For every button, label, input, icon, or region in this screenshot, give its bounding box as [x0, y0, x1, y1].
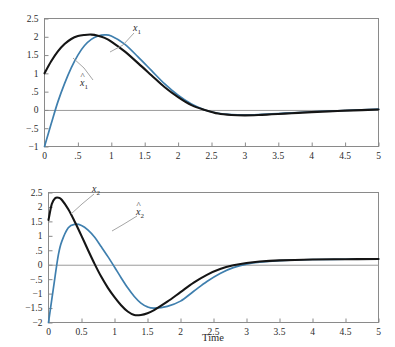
y-tick-label: 0: [38, 260, 43, 270]
x-tick-label: 3: [243, 151, 248, 161]
x-tick-label: 1: [112, 327, 117, 337]
y-tick-label: −2: [32, 318, 42, 328]
x-tick-label: 2: [178, 327, 183, 337]
x-tick-label: 2: [176, 151, 181, 161]
y-tick-label: −1: [32, 289, 42, 299]
y-tick-label: .5: [35, 246, 42, 256]
y-tick-label: −.5: [30, 275, 43, 285]
x-tick-label: 4: [309, 151, 314, 161]
x-tick-label: 3: [244, 327, 249, 337]
x-tick-label: 1.5: [142, 327, 154, 337]
y-tick-label: 1: [38, 231, 43, 241]
chart-svg-x1: 2.521.51.50−.5−1 0.511.522.533.544.55 x1…: [0, 0, 395, 172]
x-tick-label: 3.5: [272, 151, 284, 161]
x-tick-label: 2.5: [206, 151, 218, 161]
x-tick-label: 5: [376, 327, 381, 337]
y-tick-label: 2: [34, 32, 39, 42]
y-tick-label: 1: [34, 69, 39, 79]
y-tick-label: −1: [28, 142, 38, 152]
x-tick-label: 3.5: [274, 327, 286, 337]
y-tick-label: 2.5: [31, 188, 43, 198]
y-tick-label: −1.5: [25, 303, 42, 313]
y-tick-label: −.5: [26, 124, 39, 134]
y-tick-label: .5: [31, 87, 38, 97]
x-tick-label: 0: [42, 151, 47, 161]
y-tick-label: 1.5: [31, 217, 43, 227]
y-tick-label: 2: [38, 202, 43, 212]
plot-frame: [49, 193, 379, 323]
figure-container: 2.521.51.50−.5−1 0.511.522.533.544.55 x1…: [0, 0, 395, 347]
x-tick-label: 4: [310, 327, 315, 337]
chart-svg-x2: 2.521.51.50−.5−1−1.5−2 00.511.522.533.54…: [0, 172, 395, 347]
chart-panel-x1: 2.521.51.50−.5−1 0.511.522.533.544.55 x1…: [0, 0, 395, 172]
x-tick-label: 0: [46, 327, 51, 337]
x-tick-label: 4.5: [339, 151, 351, 161]
y-tick-label: 0: [34, 105, 39, 115]
x-tick-label: .5: [74, 151, 81, 161]
x-tick-label: 1: [109, 151, 114, 161]
chart-panel-x2: 2.521.51.50−.5−1−1.5−2 00.511.522.533.54…: [0, 172, 395, 347]
y-tick-label: 2.5: [27, 14, 39, 24]
x-tick-label: 4.5: [340, 327, 352, 337]
x-tick-label: 1.5: [139, 151, 151, 161]
x-tick-label: 0.5: [76, 327, 88, 337]
x-tick-label: 5: [376, 151, 381, 161]
y-tick-label: 1.5: [27, 50, 39, 60]
x-axis-title: Time: [202, 332, 224, 343]
